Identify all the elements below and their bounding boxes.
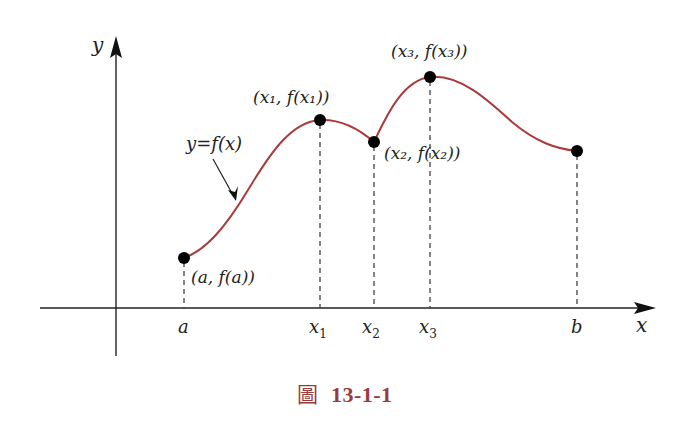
tick-x3: x3 <box>419 316 437 341</box>
curve-label: y=f(x) <box>185 133 242 154</box>
function-extrema-diagram: y x (a, f(a)) (x₁, f(x₁)) (x₂, f(x₂)) (x… <box>0 0 690 434</box>
point-a <box>178 252 190 264</box>
figure-caption-prefix: 圖 <box>297 383 319 407</box>
tick-labels: a x1 x2 x3 b <box>178 316 583 341</box>
marked-points <box>178 71 583 264</box>
tick-x1: x1 <box>309 316 327 341</box>
figure-caption-number: 13-1-1 <box>331 382 393 407</box>
y-axis-label: y <box>91 33 104 57</box>
tick-a: a <box>178 316 189 337</box>
tick-b: b <box>571 316 583 337</box>
point-x3 <box>424 71 436 83</box>
function-curve <box>184 77 577 258</box>
point-x1 <box>314 114 326 126</box>
x-axis-label: x <box>636 313 647 337</box>
point-x2 <box>368 136 380 148</box>
figure-caption: 圖13-1-1 <box>0 378 690 408</box>
label-point-a: (a, f(a)) <box>191 267 255 287</box>
curve-label-pointer <box>213 159 233 195</box>
label-point-x2: (x₂, f(x₂)) <box>384 143 460 163</box>
label-point-x3: (x₃, f(x₃)) <box>391 41 467 61</box>
label-point-x1: (x₁, f(x₁)) <box>253 87 329 107</box>
tick-x2: x2 <box>362 316 380 341</box>
point-b <box>571 145 583 157</box>
axes: y x <box>40 33 656 356</box>
